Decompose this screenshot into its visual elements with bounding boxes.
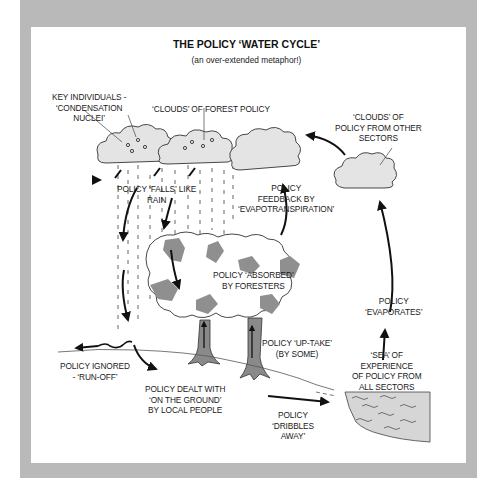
label-evaporates: POLICY ‘EVAPORATES’ bbox=[365, 296, 423, 317]
label-clouds-forest-policy: ‘CLOUDS’ OF FOREST POLICY bbox=[152, 104, 270, 115]
slash-rain-c bbox=[189, 168, 195, 176]
arrow-dribbles bbox=[268, 396, 328, 402]
label-uptake: POLICY ‘UP-TAKE’ (BY SOME) bbox=[262, 338, 332, 359]
label-absorbed: POLICY ‘ABSORBED’ BY FORESTERS bbox=[213, 270, 294, 291]
label-sea-of-experience: ‘SEA’ OF EXPERIENCE OF POLICY FROM ALL S… bbox=[352, 350, 421, 392]
label-falls-like-rain: POLICY ‘FALLS’ LIKE RAIN bbox=[117, 184, 196, 205]
sea-of-experience bbox=[345, 392, 430, 442]
label-feedback: POLICY FEEDBACK BY ‘EVAPOTRANSPIRATION’ bbox=[238, 183, 334, 215]
label-clouds-other-sectors: ‘CLOUDS’ OF POLICY FROM OTHER SECTORS bbox=[335, 112, 422, 144]
label-policy-ignored: POLICY IGNORED - ‘RUN-OFF’ bbox=[60, 361, 130, 382]
cloud-forest-policy bbox=[158, 130, 235, 164]
arrow-rain-left-2 bbox=[123, 270, 128, 320]
arrow-runoff bbox=[98, 341, 132, 347]
cloud-other-sectors bbox=[334, 153, 397, 188]
arrow-runoff-dealt bbox=[134, 345, 156, 369]
water-cycle-diagram bbox=[0, 0, 493, 496]
label-dealt-with: POLICY DEALT WITH ‘ON THE GROUND’ BY LOC… bbox=[145, 384, 225, 416]
cloud-third bbox=[230, 127, 301, 170]
label-key-individuals: KEY INDIVIDUALS - ‘CONDENSATION NUCLEI’ bbox=[52, 92, 126, 124]
diagram-title: THE POLICY ‘WATER CYCLE’ bbox=[0, 38, 493, 50]
slash-rain-b bbox=[154, 168, 160, 176]
tree-trunks bbox=[188, 318, 270, 380]
diagram-subtitle: (an over-extended metaphor!) bbox=[0, 55, 493, 65]
label-dribbles-away: POLICY ‘DRIBBLES AWAY’ bbox=[272, 410, 314, 442]
